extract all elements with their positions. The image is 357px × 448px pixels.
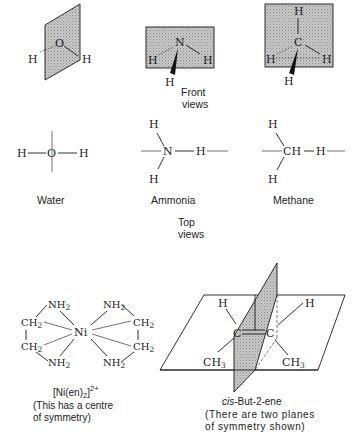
water-top-view: H O H Water <box>17 131 89 206</box>
nickel-en-complex: Ni NH2 NH2 NH2 NH2 CH2 CH2 CH2 CH2 [Ni(e… <box>21 299 154 423</box>
bond <box>278 303 303 325</box>
top-views-caption-line1: Top <box>178 216 195 228</box>
hydrogen-atom-bottom: H <box>149 173 159 186</box>
water-front-view: O H H <box>28 4 92 80</box>
bond <box>277 157 284 170</box>
nickel-atom: Ni <box>74 326 88 339</box>
coordination-bond <box>44 334 72 345</box>
bond <box>158 157 164 169</box>
oxygen-atom: O <box>47 147 56 160</box>
ch2-group: CH2 <box>21 317 42 330</box>
methane-top-view: H CH H H Methane <box>262 118 345 206</box>
coordination-bond <box>92 334 131 346</box>
hydrogen-atom-right: H <box>203 54 213 67</box>
oxygen-atom: O <box>55 37 64 50</box>
hydrogen-atom-top: H <box>294 5 304 18</box>
hydrogen-atom-left: H <box>218 297 228 310</box>
nh2-group: NH2 <box>48 299 70 312</box>
nh2-group: NH2 <box>48 357 70 370</box>
butene-note-line1: (There are two planes <box>205 409 315 420</box>
complex-note-line1: (This has a centre <box>33 400 113 411</box>
hydrogen-atom-top: H <box>268 118 278 131</box>
carbon-atom-left: C <box>233 327 241 340</box>
coordination-bond <box>60 339 74 356</box>
nitrogen-atom: N <box>163 145 173 158</box>
hydrogen-atom-wedge: H <box>284 75 294 88</box>
methyl-group-left: CH3 <box>203 356 226 370</box>
methyl-group-right: CH3 <box>282 356 305 370</box>
carbon-atom-right: C <box>266 327 274 340</box>
coordination-bond <box>91 311 107 325</box>
butene-name: cis-But-2-ene <box>222 396 282 407</box>
methane-label: Methane <box>273 194 314 206</box>
ammonia-front-view: N H H H <box>146 27 214 89</box>
hydrogen-atom-right: H <box>82 53 92 66</box>
ch2-group: CH2 <box>21 341 42 354</box>
ch2-group: CH2 <box>133 317 154 330</box>
ammonia-label: Ammonia <box>151 194 196 206</box>
complex-formula: [Ni(en)2]2+ <box>53 384 99 400</box>
ch2-group: CH2 <box>133 341 154 354</box>
cis-but-2-ene: H H C C CH3 CH3 cis-But-2-ene (There are… <box>160 263 345 432</box>
carbon-atom: C <box>294 36 302 49</box>
hydrogen-atom-top: H <box>149 118 159 131</box>
top-views-caption-line2: views <box>178 228 204 240</box>
coordination-bond <box>44 322 72 330</box>
carbon-center: CH <box>283 145 301 158</box>
butene-note-line2: of symmetry shown) <box>205 421 305 432</box>
symmetry-diagram: O H H N H H H Front views H C H H H H O … <box>0 0 357 448</box>
bond <box>226 309 236 324</box>
front-views-caption-line1: Front <box>181 86 206 98</box>
coordination-bond <box>91 339 107 356</box>
bond <box>36 305 47 317</box>
hydrogen-atom-right: H <box>305 297 315 310</box>
hydrogen-atom-right: H <box>79 147 89 160</box>
nh2-group: NH2 <box>103 357 125 370</box>
hydrogen-atom-left: H <box>28 53 38 66</box>
hydrogen-atom-left: H <box>266 53 276 66</box>
hydrogen-atom-left: H <box>148 54 158 67</box>
front-views-caption-line2: views <box>182 98 208 110</box>
coordination-bond <box>92 321 131 330</box>
hydrogen-atom-right: H <box>316 145 326 158</box>
methane-front-view: H C H H H <box>265 4 333 88</box>
hydrogen-atom-bottom: H <box>268 173 278 186</box>
bond <box>218 338 234 352</box>
hydrogen-atom-right: H <box>196 145 206 158</box>
coordination-bond <box>60 311 74 325</box>
bond <box>275 340 288 355</box>
bond <box>121 352 134 362</box>
hydrogen-atom-wedge: H <box>165 76 175 89</box>
hydrogen-atom-right: H <box>322 53 332 66</box>
hydrogen-atom-left: H <box>17 147 27 160</box>
water-label: Water <box>37 194 65 206</box>
nitrogen-atom: N <box>175 36 185 49</box>
complex-note-line2: of symmetry) <box>33 412 91 423</box>
ammonia-top-view: H N H H Ammonia <box>141 118 228 206</box>
